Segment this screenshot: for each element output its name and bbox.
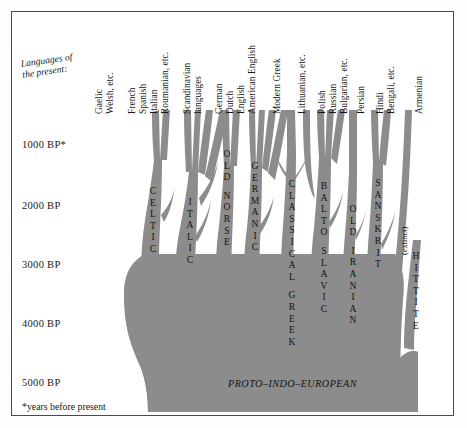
tip-label-scandinavian-languages: languages [193,76,203,114]
tip-label-armenian: Armenian [414,76,424,114]
tip-label-modern-greek: Modern Greek [272,58,282,114]
tip-label-bulgarian: Bulgarian, etc. [339,58,349,114]
trunk-label-proto-indo-european: PROTO–INDO–EUROPEAN [228,378,357,389]
extinct-marker-label: (extinct) [400,227,409,255]
tip-label-welsh: Welsh, etc. [105,72,115,114]
tip-label-italian: Italian [149,90,159,114]
tip-label-german: German [214,83,224,114]
language-tree-figure: Languages ofthe present: 1000 BP* 2000 B… [0,0,467,428]
tip-label-bengali: Bengali, etc. [386,66,396,114]
branch-name-hittite: HITTITE [409,250,423,331]
tip-label-russian: Russian [328,84,338,114]
tip-label-hindi: Hindi [375,92,385,114]
axis-tick-2000bp: 2000 BP [22,200,61,211]
axis-tick-5000bp: 5000 BP [22,377,61,388]
tip-label-lithuanian: Lithuanian, etc. [297,54,307,114]
branch-name-sanskrit: SANSKRIT [371,177,385,270]
axis-tick-1000bp: 1000 BP* [22,139,66,150]
branch-name-old-norse: OLD NORSE [220,148,234,248]
axis-tick-3000bp: 3000 BP [22,259,61,270]
tip-label-american-english: American English [247,45,257,114]
axis-tick-4000bp: 4000 BP [22,318,61,329]
tip-label-scandinavian: Scandinavian [182,63,192,114]
footnote-years-before-present: *years before present [22,401,106,412]
branch-name-balto-slavic: BALTO SLAVIC [317,180,331,315]
tip-label-roumanian: Roumanian, etc. [160,52,170,114]
tip-label-polish: Polish [317,90,327,114]
tip-label-english: English [236,85,246,114]
branch-name-germanic: GERMANIC [248,160,262,253]
tip-label-persian: Persian [356,86,366,114]
branch-name-italic: ITALIC [183,196,197,266]
tip-label-french: French [127,88,137,114]
tip-label-spanish: Spanish [138,84,148,114]
tip-label-gaelic: Gaelic [94,89,104,114]
branch-name-celtic: CELTIC [146,185,160,255]
tip-label-dutch: Dutch [225,91,235,114]
branch-name-old-iranian: OLD IRANIAN [346,203,360,326]
branch-name-classical-greek: CLASSICAL GREEK [285,178,299,347]
